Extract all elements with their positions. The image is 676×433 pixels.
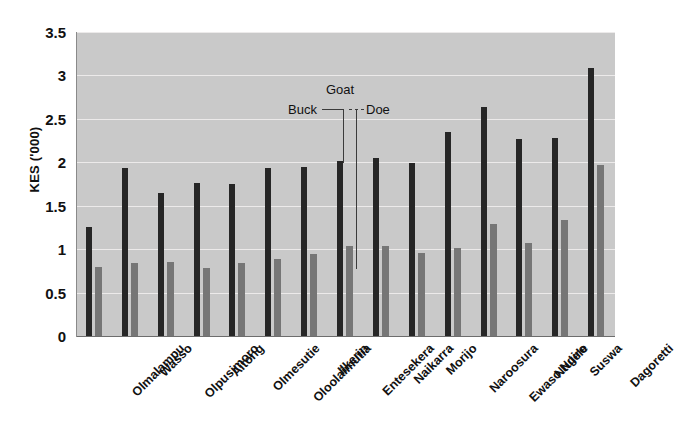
y-tick-label: 1.5 [45,198,66,213]
bar-group [400,32,436,336]
bar-doe [95,267,102,336]
x-tick-label: Suswa [588,342,625,379]
bar-doe [454,248,461,336]
bar-doe [131,263,138,336]
bar-group [77,32,113,336]
bar-buck [409,163,415,336]
bar-buck [481,107,487,336]
bar-group [185,32,221,336]
bar-buck [445,132,451,336]
bar-doe [310,254,317,336]
bar-doe [274,259,281,336]
bar-buck [265,168,271,337]
bar-group [113,32,149,336]
bar-buck [194,183,200,336]
x-axis-tick-labels: OlmalampuWassoOlpusimoroAitongOlmesutieO… [77,338,645,433]
bar-doe [490,224,497,336]
bar-group [507,32,543,336]
bar-group [543,32,579,336]
bar-doe [346,246,353,336]
bar-doe [167,262,174,336]
bar-group [579,32,615,336]
bar-buck [229,184,235,336]
bar-group [149,32,185,336]
plot-area [77,32,615,336]
x-tick-label: Olmesutie [271,342,323,394]
y-tick-label: 0 [58,329,66,344]
y-tick-label: 0.5 [45,285,66,300]
y-axis-tick-labels: 00.511.522.533.5 [30,32,72,336]
x-axis-line [77,336,615,337]
bar-buck [516,139,522,336]
bar-group [292,32,328,336]
bar-group [328,32,364,336]
bar-group [256,32,292,336]
bar-doe [561,220,568,336]
bar-buck [552,138,558,336]
bar-group [364,32,400,336]
y-tick-label: 2.5 [45,111,66,126]
bar-buck [301,167,307,336]
bar-group [220,32,256,336]
bar-buck [373,158,379,336]
x-tick-label: Dagoretti [628,342,676,390]
x-tick-label: Naroosura [487,342,540,395]
bar-buck [158,193,164,336]
bar-buck [122,168,128,337]
bar-doe [525,243,532,336]
y-tick-label: 2 [58,155,66,170]
y-tick-label: 3 [58,68,66,83]
y-tick-label: 3.5 [45,25,66,40]
bar-doe [238,263,245,336]
bar-buck [86,227,92,336]
bar-group [472,32,508,336]
bar-buck [337,161,343,336]
bar-doe [418,253,425,336]
bar-buck [588,68,594,336]
bar-group [436,32,472,336]
bar-doe [597,165,604,336]
y-tick-label: 1 [58,242,66,257]
bar-doe [382,246,389,336]
bar-doe [203,268,210,336]
